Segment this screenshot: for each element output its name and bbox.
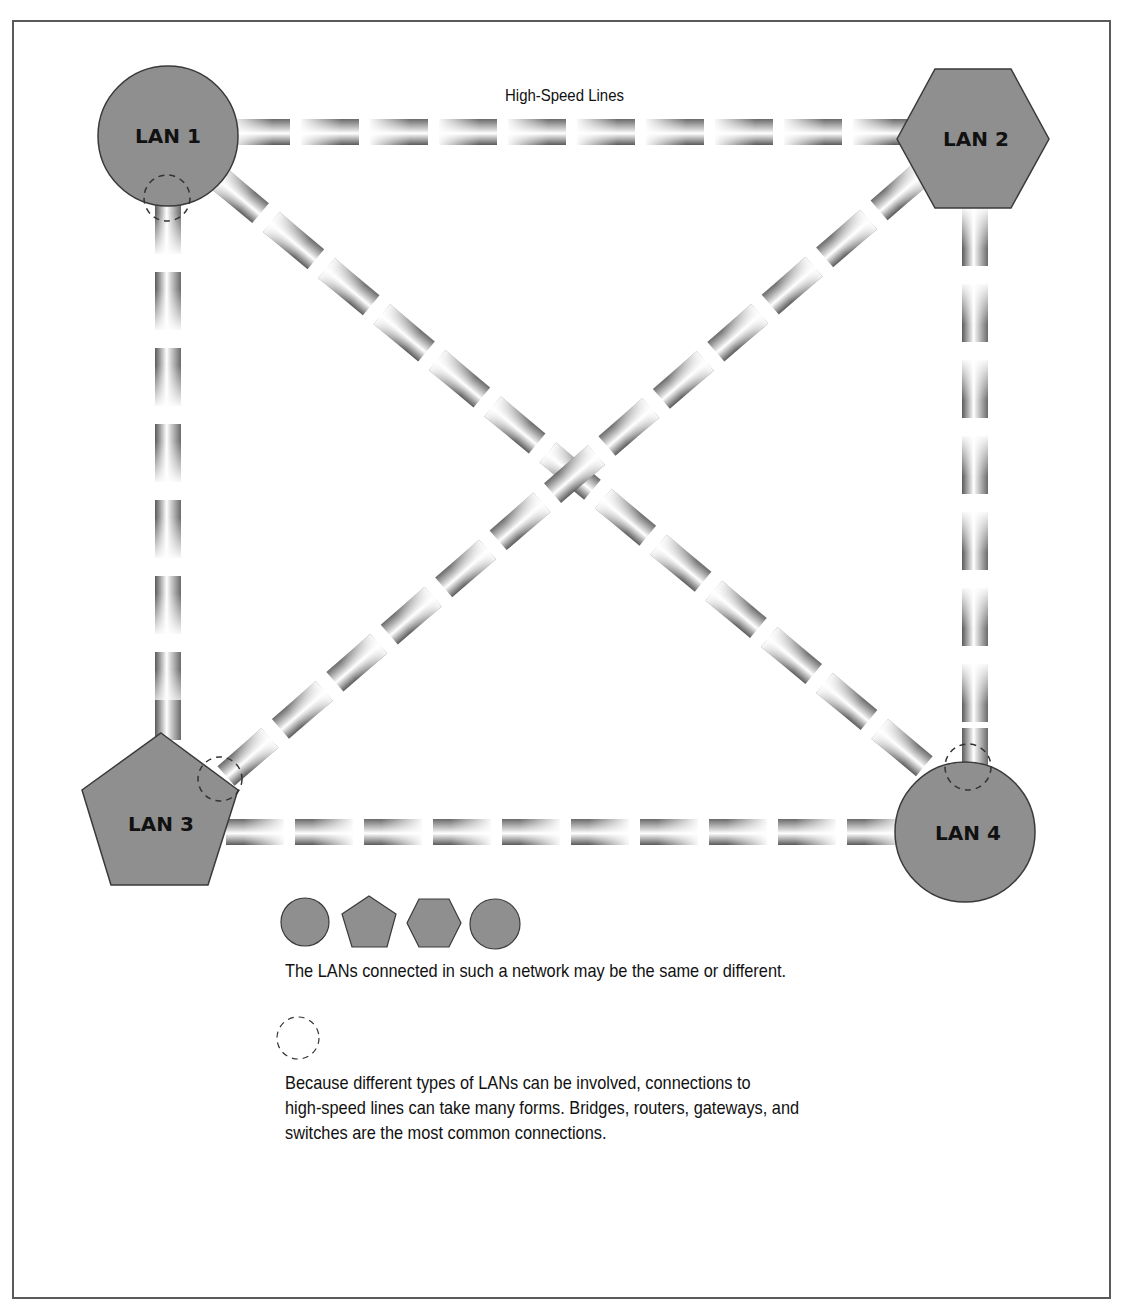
node-label-lan4: LAN 4 [935,821,1001,845]
legend-circle-icon-2 [470,899,520,949]
pipe-lan2-lan4 [962,208,988,768]
node-lan1: LAN 1 [98,66,238,221]
node-lan3: LAN 3 [82,733,242,885]
legend-connection-caption-line-3: switches are the most common connections… [285,1120,799,1145]
legend-connection-caption-line-2: high-speed lines can take many forms. Br… [285,1095,799,1120]
lan3-pentagon-icon [82,733,238,885]
pipe-lan3-lan4 [226,819,905,845]
pipe-lan1-lan2 [232,119,911,145]
high-speed-lines-label: High-Speed Lines [505,86,624,106]
legend-pentagon-icon [342,896,396,947]
pipe-lan1-lan3 [155,196,181,740]
legend-hexagon-icon [407,899,461,947]
legend-shapes [281,896,520,949]
legend-circle-icon [281,898,329,946]
node-label-lan3: LAN 3 [128,812,194,836]
legend-connection-caption: Because different types of LANs can be i… [285,1070,799,1145]
legend-connection-marker-icon [277,1017,319,1059]
legend-connection-caption-line-1: Because different types of LANs can be i… [285,1070,799,1095]
node-label-lan1: LAN 1 [135,124,201,148]
legend-shapes-caption: The LANs connected in such a network may… [285,958,786,983]
node-label-lan2: LAN 2 [943,127,1009,151]
